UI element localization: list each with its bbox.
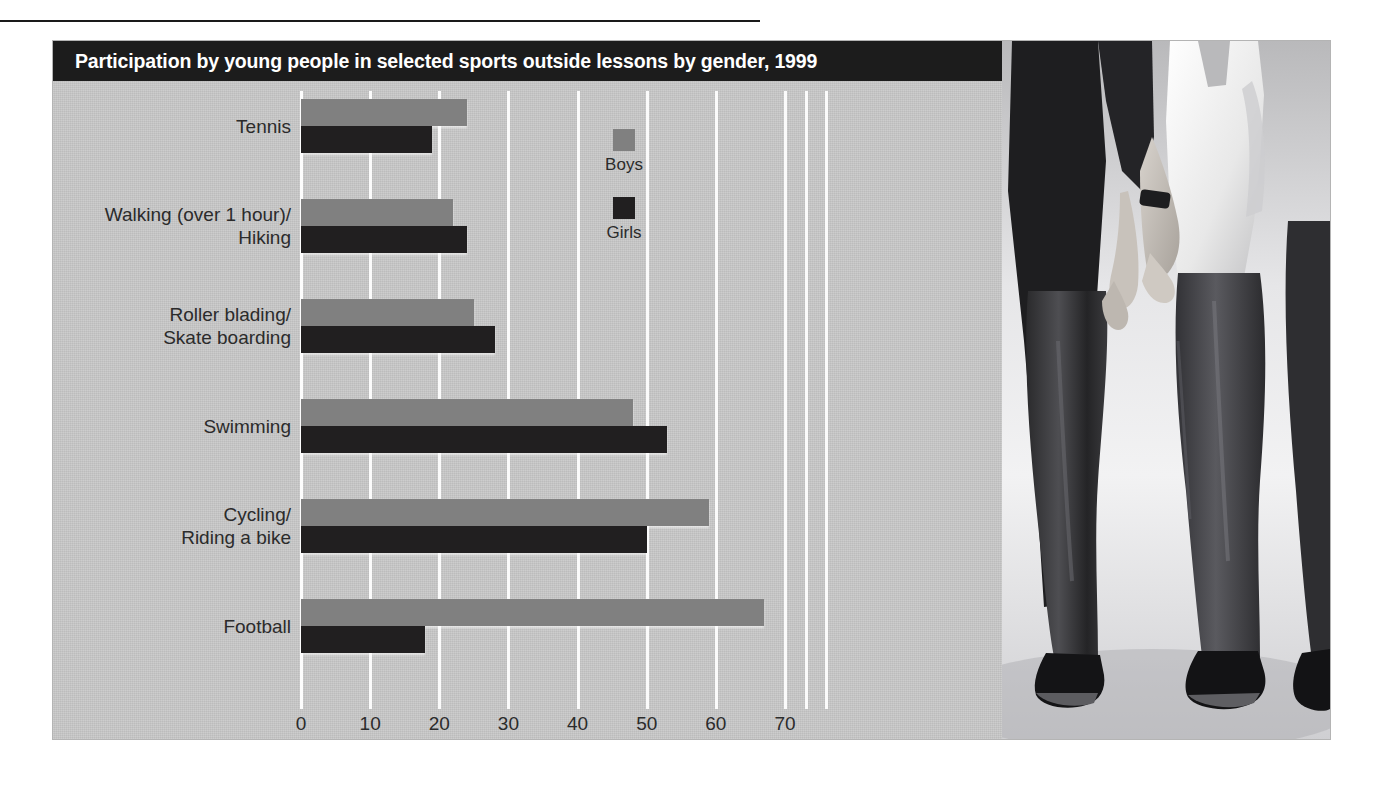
x-tick-label-60: 60 [705, 713, 726, 735]
legend-item-boys: Boys [593, 129, 655, 175]
bar-girls-3 [301, 426, 667, 453]
x-tick-label-70: 70 [774, 713, 795, 735]
bar-girls-2 [301, 326, 495, 353]
legend-swatch-girls-icon [613, 197, 635, 219]
chart-legend: Boys Girls [593, 129, 713, 265]
chart-title-bar: Participation by young people in selecte… [53, 41, 1004, 81]
legend-item-girls: Girls [593, 197, 655, 243]
category-label: Walking (over 1 hour)/ Hiking [52, 203, 291, 249]
category-label: Swimming [52, 415, 291, 438]
chart-row [301, 299, 785, 353]
bar-boys-2 [301, 299, 474, 326]
chart-category-labels: TennisWalking (over 1 hour)/ HikingRolle… [53, 91, 291, 691]
bar-girls-5 [301, 626, 425, 653]
x-tick-label-30: 30 [498, 713, 519, 735]
chart-title: Participation by young people in selecte… [75, 50, 817, 73]
page-root: Participation by young people in selecte… [0, 0, 1379, 795]
chart-x-axis-ticks: 010203040506070 [301, 713, 785, 740]
chart-row [301, 399, 785, 453]
outer-rule-1 [805, 91, 808, 709]
chart-row [301, 599, 785, 653]
top-rule-divider [0, 0, 760, 22]
outer-rule-2 [825, 91, 828, 709]
bar-boys-5 [301, 599, 764, 626]
bar-boys-1 [301, 199, 453, 226]
photo-children-walking [1002, 41, 1330, 740]
bar-girls-4 [301, 526, 647, 553]
category-label: Football [52, 615, 291, 638]
category-label: Cycling/ Riding a bike [52, 503, 291, 549]
legend-label-girls: Girls [593, 223, 655, 243]
category-label: Tennis [52, 115, 291, 138]
x-tick-label-20: 20 [429, 713, 450, 735]
category-label: Roller blading/ Skate boarding [52, 303, 291, 349]
x-tick-label-10: 10 [360, 713, 381, 735]
legend-swatch-boys-icon [613, 129, 635, 151]
chart-row [301, 499, 785, 553]
chart-figure: Participation by young people in selecte… [52, 40, 1331, 740]
bar-boys-0 [301, 99, 467, 126]
bar-girls-1 [301, 226, 467, 253]
photo-children-walking-graphic [1002, 41, 1330, 740]
x-tick-label-40: 40 [567, 713, 588, 735]
legend-label-boys: Boys [593, 155, 655, 175]
x-tick-label-50: 50 [636, 713, 657, 735]
bar-girls-0 [301, 126, 432, 153]
bar-boys-4 [301, 499, 709, 526]
bar-boys-3 [301, 399, 633, 426]
x-tick-label-0: 0 [296, 713, 307, 735]
